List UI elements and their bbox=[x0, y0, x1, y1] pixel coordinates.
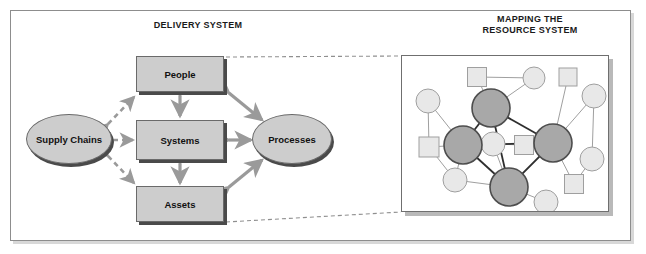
network-node-circ-upper-right[interactable] bbox=[582, 84, 606, 108]
network-node-sq-mid-left[interactable] bbox=[419, 137, 439, 157]
mapping-heading-line2: RESOURCE SYSTEM bbox=[482, 25, 577, 35]
network-node-circ-upper-left[interactable] bbox=[416, 89, 440, 113]
network-node-sq-top-left[interactable] bbox=[468, 68, 487, 87]
delivery-system-heading: DELIVERY SYSTEM bbox=[118, 20, 278, 31]
figure-canvas: DELIVERY SYSTEM MAPPING THE RESOURCE SYS… bbox=[0, 0, 646, 254]
network-node-circ-bottom[interactable] bbox=[534, 190, 558, 211]
network-node-circ-mid-right[interactable] bbox=[580, 147, 604, 171]
network-node-sq-top-right[interactable] bbox=[559, 68, 577, 86]
network-node-circ-low-left[interactable] bbox=[443, 168, 467, 192]
network-node-hub-bottom[interactable] bbox=[490, 168, 528, 206]
resource-system-panel[interactable] bbox=[401, 55, 609, 212]
resource-network-graph bbox=[402, 56, 608, 211]
network-node-hub-left[interactable] bbox=[444, 126, 482, 164]
node-supply-chains[interactable]: Supply Chains bbox=[26, 114, 112, 164]
network-node-circ-top-mid[interactable] bbox=[523, 67, 545, 89]
network-node-circ-inner[interactable] bbox=[481, 132, 505, 156]
network-node-sq-inner[interactable] bbox=[515, 136, 534, 155]
node-processes[interactable]: Processes bbox=[252, 114, 332, 164]
network-node-hub-top[interactable] bbox=[472, 89, 510, 127]
node-people[interactable]: People bbox=[136, 56, 224, 92]
mapping-heading-line1: MAPPING THE bbox=[497, 14, 563, 24]
node-systems[interactable]: Systems bbox=[136, 120, 224, 160]
network-node-sq-low-right[interactable] bbox=[565, 175, 584, 194]
node-assets[interactable]: Assets bbox=[136, 186, 224, 222]
mapping-resource-system-heading: MAPPING THE RESOURCE SYSTEM bbox=[440, 14, 620, 36]
network-node-hub-right[interactable] bbox=[534, 124, 572, 162]
